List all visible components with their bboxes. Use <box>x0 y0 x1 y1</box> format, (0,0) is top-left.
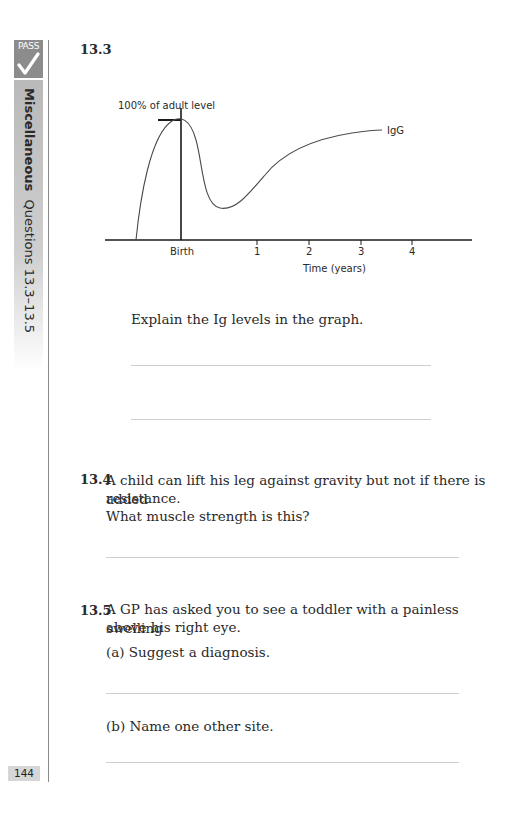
x-tick-4: 4 <box>409 246 415 257</box>
x-tick-1: 1 <box>254 246 260 257</box>
page-number: 144 <box>8 766 40 781</box>
answer-line[interactable] <box>106 693 459 694</box>
series-label: IgG <box>387 125 404 136</box>
igg-chart: 100% of adult level IgG Birth 1 2 3 4 Ti… <box>0 0 519 290</box>
x-tick-birth: Birth <box>170 246 194 257</box>
answer-line[interactable] <box>106 557 459 558</box>
x-tick-3: 3 <box>358 246 364 257</box>
question-text-line: above his right eye. <box>106 618 241 637</box>
question-prompt: Explain the Ig levels in the graph. <box>131 310 363 329</box>
question-text-line: What muscle strength is this? <box>106 507 310 526</box>
x-axis-label: Time (years) <box>303 263 366 274</box>
question-part-b: (b) Name one other site. <box>106 717 273 736</box>
answer-line[interactable] <box>131 365 431 366</box>
answer-line[interactable] <box>131 419 431 420</box>
y-annotation: 100% of adult level <box>118 100 158 112</box>
x-tick-2: 2 <box>306 246 312 257</box>
question-part-a: (a) Suggest a diagnosis. <box>106 643 270 662</box>
question-text-line: resistance. <box>106 489 181 508</box>
answer-line[interactable] <box>106 762 459 763</box>
